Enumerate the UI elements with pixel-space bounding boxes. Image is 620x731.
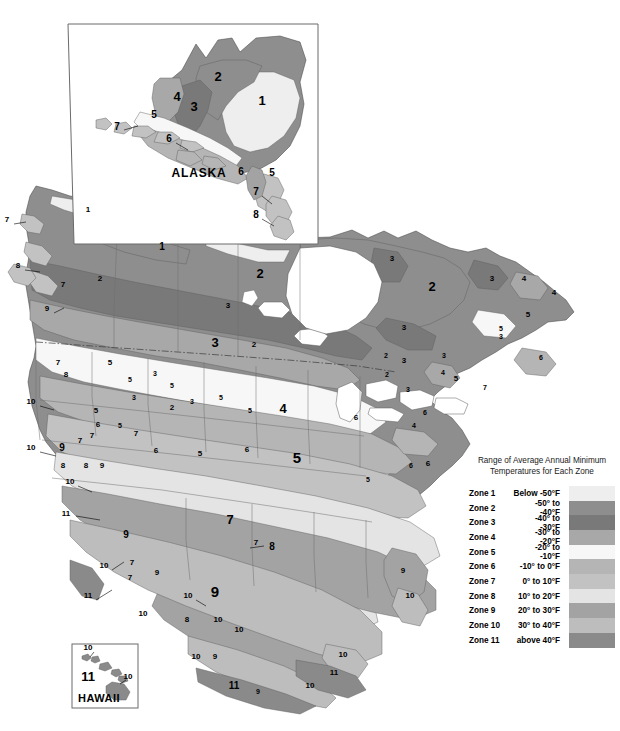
mainland-zone-label: 6	[245, 445, 250, 454]
mainland-zone-label: 4	[441, 369, 445, 376]
legend-row: Zone 6-10° to 0°F	[469, 559, 615, 574]
mainland-zone-label: 7	[90, 431, 95, 440]
mainland-zone-label: 3	[226, 301, 231, 310]
legend-color-swatch	[569, 618, 615, 633]
alaska-zone-label: 3	[190, 99, 197, 114]
legend-color-swatch	[569, 530, 615, 545]
mainland-zone-label: 6	[154, 446, 159, 455]
mainland-zone-label: 9	[256, 688, 260, 695]
mainland-zone-label: 10	[27, 443, 36, 452]
legend-zone-name: Zone 5	[469, 548, 513, 557]
mainland-zone-label: 7	[128, 573, 133, 582]
legend-zone-name: Zone 1	[469, 489, 513, 498]
mainland-zone-label: 2	[98, 274, 103, 283]
mainland-zone-label: 5	[366, 476, 370, 483]
mainland-zone-label: 7	[5, 215, 10, 224]
legend-color-swatch	[569, 545, 615, 560]
mainland-zone-label: 5	[128, 376, 132, 383]
mainland-zone-label: 5	[170, 382, 174, 389]
mainland-zone-label: 7	[254, 538, 259, 547]
legend-color-swatch	[569, 486, 615, 501]
legend-temperature-range: 0° to 10°F	[513, 577, 569, 586]
alaska-zone-label: 5	[269, 167, 275, 178]
mainland-zone-label: 3	[153, 370, 157, 377]
legend-temperature-range: above 40°F	[513, 636, 569, 645]
mainland-zone-label: 9	[123, 529, 129, 540]
mainland-zone-label: 2	[384, 352, 388, 359]
mainland-zone-label: 5	[219, 394, 223, 401]
mainland-zone-label: 10	[192, 652, 201, 661]
mainland-zone-label: 3	[211, 335, 218, 350]
alaska-zone-label: 5	[151, 109, 157, 120]
mainland-zone-label: 3	[442, 352, 446, 359]
mainland-zone-label: 2	[428, 279, 435, 294]
legend-color-swatch	[569, 574, 615, 589]
legend-zone-name: Zone 4	[469, 533, 513, 542]
legend-color-swatch	[569, 501, 615, 516]
legend-zone-name: Zone 8	[469, 592, 513, 601]
legend-temperature-range: 20° to 30°F	[513, 606, 569, 615]
legend-zone-name: Zone 10	[469, 621, 513, 630]
legend-zone-name: Zone 2	[469, 504, 513, 513]
hawaii-inset-title: HAWAII	[78, 692, 120, 704]
legend-temperature-range: -10° to 0°F	[513, 562, 569, 571]
mainland-zone-label: 3	[190, 398, 194, 405]
hawaii-zone-label: 11	[81, 669, 95, 684]
legend-rows: Zone 1Below -50°FZone 2-50° to -40°FZone…	[469, 486, 615, 648]
mainland-zone-label: 10	[66, 477, 75, 486]
hawaii-zone-label: 10	[84, 643, 93, 652]
mainland-zone-label: 10	[184, 591, 193, 600]
legend-row: Zone 11above 40°F	[469, 633, 615, 648]
mainland-zone-label: 5	[499, 325, 503, 332]
mainland-zone-label: 2	[170, 403, 175, 412]
mainland-zone-label: 11	[229, 680, 240, 691]
mainland-zone-label: 7	[483, 384, 487, 391]
legend-color-swatch	[569, 633, 615, 648]
mainland-zone-label: 3	[406, 386, 410, 393]
legend-temperature-range: 30° to 40°F	[513, 621, 569, 630]
mainland-zone-label: 9	[213, 652, 218, 661]
alaska-inset: ALASKA	[68, 24, 318, 244]
mainland-zone-label: 3	[402, 356, 407, 365]
alaska-zone-label: 4	[173, 89, 181, 104]
hawaii-zone-label: 10	[124, 672, 133, 681]
mainland-zone-label: 6	[423, 409, 427, 416]
alaska-zone-label: 2	[214, 69, 221, 84]
mainland-zone-label: 3	[132, 394, 136, 401]
mainland-zone-label: 2	[385, 371, 389, 378]
mainland-zone-label: 9	[401, 566, 406, 575]
legend-color-swatch	[569, 515, 615, 530]
mainland-zone-label: 1	[86, 205, 91, 214]
mainland-zone-label: 9	[155, 568, 160, 577]
mainland-zone-label: 7	[134, 429, 139, 438]
legend-temperature-range: Below -50°F	[513, 489, 569, 498]
mainland-zone-label: 3	[390, 254, 395, 263]
alaska-zone-label: 6	[166, 133, 172, 144]
alaska-zone-label: 7	[253, 186, 259, 197]
mainland-zone-label: 8	[64, 370, 69, 379]
mainland-zone-label: 1	[159, 241, 165, 252]
legend-row: Zone 920° to 30°F	[469, 604, 615, 619]
legend-color-swatch	[569, 559, 615, 574]
mainland-zone-label: 11	[84, 591, 93, 600]
mainland-zone-label: 10	[139, 609, 148, 618]
mainland-zone-label: 9	[100, 461, 105, 470]
mainland-zone-label: 2	[256, 266, 263, 281]
mainland-zone-label: 10	[339, 650, 348, 659]
mainland-zone-label: 6	[539, 354, 543, 361]
mainland-zone-label: 7	[61, 280, 66, 289]
mainland-zone-label: 10	[235, 625, 244, 634]
mainland-zone-label: 4	[522, 274, 527, 283]
legend-zone-name: Zone 9	[469, 606, 513, 615]
mainland-zone-label: 3	[402, 323, 407, 332]
mainland-zone-label: 6	[409, 462, 413, 469]
mainland-zone-label: 7	[56, 358, 61, 367]
mainland-zone-label: 4	[552, 288, 557, 297]
mainland-zone-label: 11	[330, 668, 339, 677]
mainland-zone-label: 5	[248, 407, 252, 414]
legend-zone-name: Zone 11	[469, 636, 513, 645]
legend-zone-name: Zone 6	[469, 562, 513, 571]
mainland-zone-label: 6	[96, 420, 101, 429]
mainland-zone-label: 6	[354, 413, 359, 422]
mainland-zone-label: 10	[27, 397, 36, 406]
